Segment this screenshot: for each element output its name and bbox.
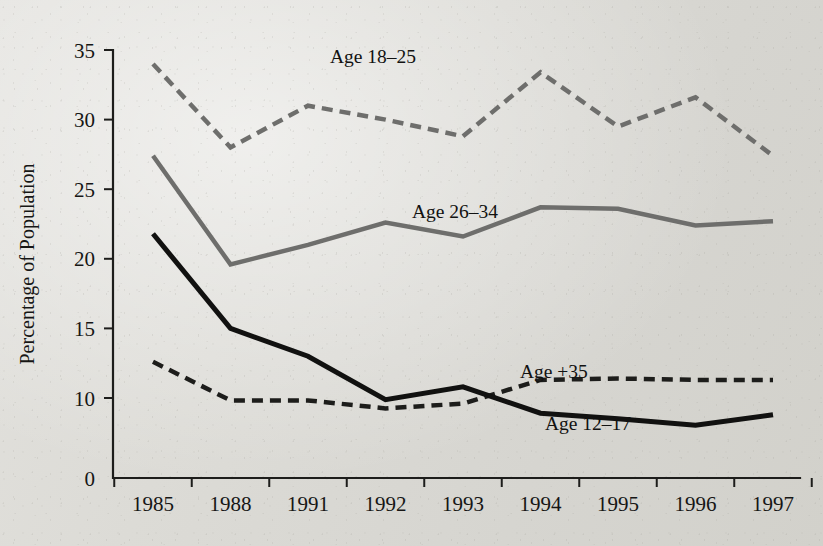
- x-tick-label: 1992: [365, 492, 407, 516]
- y-axis-title: Percentage of Population: [16, 163, 39, 364]
- x-tick-label: 1995: [597, 492, 639, 516]
- x-axis-tick-labels: 198519881991199219931994199519961997: [132, 492, 794, 516]
- series-annotations: Age 18–25Age 26–34Age +35Age 12–17: [330, 46, 631, 434]
- line-chart: 3530252015100 19851988199119921993199419…: [0, 0, 823, 546]
- x-axis-ticks: [114, 478, 812, 487]
- figure-page: 3530252015100 19851988199119921993199419…: [0, 0, 823, 546]
- y-tick-label: 0: [85, 467, 96, 491]
- label-age-26-34: Age 26–34: [412, 201, 498, 222]
- y-axis-ticks: [104, 50, 113, 398]
- x-tick-label: 1996: [675, 492, 717, 516]
- x-tick-label: 1993: [442, 492, 484, 516]
- y-axis-tick-labels: 3530252015100: [74, 39, 95, 491]
- y-tick-label: 25: [74, 178, 95, 202]
- data-series-group: [153, 64, 773, 425]
- x-tick-label: 1994: [520, 492, 563, 516]
- label-age-18-25: Age 18–25: [330, 46, 416, 67]
- y-tick-label: 10: [74, 387, 95, 411]
- label-age-12-17: Age 12–17: [545, 413, 631, 434]
- axis-spine: [113, 50, 800, 478]
- x-tick-label: 1988: [210, 492, 252, 516]
- label-age-plus-35: Age +35: [520, 361, 588, 382]
- y-tick-label: 20: [74, 247, 95, 271]
- x-tick-label: 1985: [132, 492, 174, 516]
- x-tick-label: 1997: [752, 492, 794, 516]
- y-tick-label: 15: [74, 317, 95, 341]
- x-tick-label: 1991: [287, 492, 329, 516]
- series-line-1: [153, 64, 773, 156]
- y-tick-label: 30: [74, 108, 95, 132]
- y-tick-label: 35: [74, 39, 95, 63]
